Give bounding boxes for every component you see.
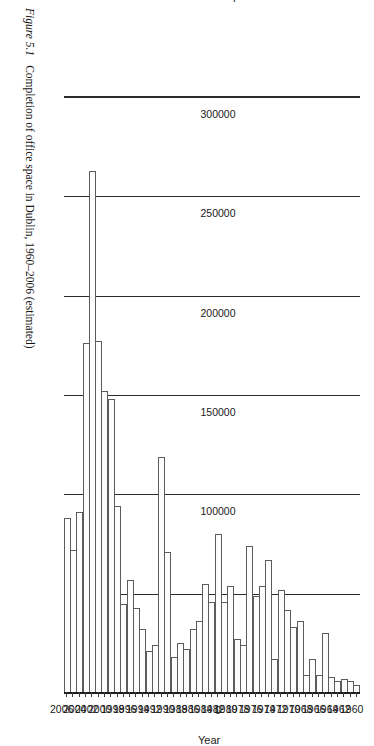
x-tick-1987: [186, 692, 187, 697]
bar-chart: Sq metres 050000100000150000200000250000…: [74, 0, 374, 736]
plot-inner: [64, 97, 360, 692]
bar-1968: [303, 675, 310, 693]
bar-1993: [146, 651, 153, 693]
bar-1971: [284, 610, 291, 693]
x-tick-1986: [192, 692, 193, 697]
bar-1980: [227, 586, 234, 693]
x-tick-2001: [98, 692, 99, 697]
bar-1962: [341, 679, 348, 693]
x-tick-1965: [324, 692, 325, 697]
x-tick-1967: [312, 692, 313, 697]
bar-1985: [196, 621, 203, 693]
bar-2004: [76, 512, 83, 693]
bar-1975: [259, 586, 266, 693]
x-tick-1980: [230, 692, 231, 697]
x-tick-1962: [343, 692, 344, 697]
x-tick-1996: [129, 692, 130, 697]
x-tick-1985: [198, 692, 199, 697]
x-tick-1994: [142, 692, 143, 697]
x-tick-1976: [255, 692, 256, 697]
bar-1974: [265, 560, 272, 693]
bar-1983: [209, 602, 216, 693]
x-tick-1988: [180, 692, 181, 697]
x-tick-1995: [135, 692, 136, 697]
bar-1987: [183, 649, 190, 693]
figure-number: Figure 5.1: [24, 8, 36, 56]
bar-1999: [108, 399, 115, 693]
bar-1991: [158, 457, 165, 693]
bar-1977: [246, 546, 253, 693]
plot-area: [64, 96, 360, 692]
x-tick-1984: [205, 692, 206, 697]
x-tick-1978: [243, 692, 244, 697]
bar-1998: [114, 506, 121, 693]
x-tick-2005: [72, 692, 73, 697]
bar-1966: [316, 675, 323, 693]
bar-1989: [171, 657, 178, 693]
bar-2002: [89, 171, 96, 693]
x-tick-1990: [167, 692, 168, 697]
bar-1997: [120, 604, 127, 693]
x-tick-1966: [318, 692, 319, 697]
x-tick-1993: [148, 692, 149, 697]
x-tick-1972: [280, 692, 281, 697]
x-tick-2004: [79, 692, 80, 697]
x-tick-2003: [85, 692, 86, 697]
gridline-200000: [64, 296, 360, 297]
bar-2001: [95, 341, 102, 693]
bar-1976: [253, 596, 260, 693]
x-tick-1981: [224, 692, 225, 697]
bar-1973: [271, 659, 278, 693]
x-tick-1968: [305, 692, 306, 697]
x-tick-1982: [217, 692, 218, 697]
x-tick-1963: [337, 692, 338, 697]
x-tick-1992: [154, 692, 155, 697]
caption-text: Completion of office space in Dublin, 19…: [24, 65, 36, 348]
x-tick-1970: [293, 692, 294, 697]
bar-1978: [240, 645, 247, 693]
x-tick-1975: [261, 692, 262, 697]
x-tick-1969: [299, 692, 300, 697]
bar-1981: [221, 602, 228, 693]
figure-caption: Figure 5.1Completion of office space in …: [24, 8, 36, 349]
x-tick-1974: [268, 692, 269, 697]
x-tick-1973: [274, 692, 275, 697]
x-tick-1960: [356, 692, 357, 697]
bar-1990: [164, 552, 171, 693]
x-tick-1997: [123, 692, 124, 697]
gridline-250000: [64, 196, 360, 197]
x-tick-label-2006: 2006: [50, 703, 73, 715]
x-tick-2000: [104, 692, 105, 697]
bar-1967: [309, 659, 316, 693]
bar-2005: [70, 550, 77, 693]
x-tick-1977: [249, 692, 250, 697]
bar-1969: [297, 621, 304, 693]
bar-1964: [328, 677, 335, 693]
bar-1986: [190, 629, 197, 693]
x-axis-title: Year: [198, 734, 220, 746]
x-tick-2002: [91, 692, 92, 697]
bar-2003: [83, 343, 90, 693]
bar-1992: [152, 645, 159, 693]
bar-1995: [133, 608, 140, 693]
x-tick-1999: [110, 692, 111, 697]
bar-1996: [127, 580, 134, 693]
bar-1965: [322, 633, 329, 693]
x-tick-1991: [161, 692, 162, 697]
bar-1970: [290, 627, 297, 693]
x-tick-1983: [211, 692, 212, 697]
bar-1979: [234, 639, 241, 693]
bar-1982: [215, 534, 222, 693]
x-tick-1964: [331, 692, 332, 697]
x-tick-1989: [173, 692, 174, 697]
bar-1972: [278, 590, 285, 693]
x-tick-1979: [236, 692, 237, 697]
x-tick-2006: [66, 692, 67, 697]
x-tick-1998: [117, 692, 118, 697]
bar-1984: [202, 584, 209, 693]
bar-2000: [101, 391, 108, 693]
x-tick-1961: [350, 692, 351, 697]
x-tick-1971: [287, 692, 288, 697]
